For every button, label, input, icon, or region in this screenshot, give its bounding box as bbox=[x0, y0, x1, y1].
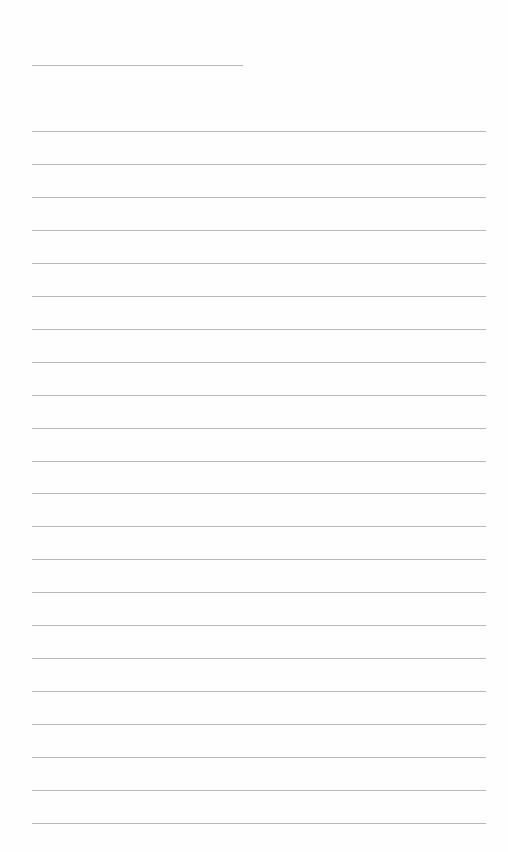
ruled-line bbox=[32, 395, 486, 396]
ruled-line bbox=[32, 230, 486, 231]
ruled-line bbox=[32, 329, 486, 330]
ruled-line bbox=[32, 526, 486, 527]
ruled-line bbox=[32, 691, 486, 692]
ruled-line bbox=[32, 658, 486, 659]
ruled-line bbox=[32, 592, 486, 593]
ruled-line bbox=[32, 296, 486, 297]
ruled-line bbox=[32, 461, 486, 462]
name-line bbox=[32, 65, 243, 66]
ruled-line bbox=[32, 493, 486, 494]
ruled-line bbox=[32, 724, 486, 725]
ruled-line bbox=[32, 428, 486, 429]
ruled-line bbox=[32, 362, 486, 363]
ruled-line bbox=[32, 164, 486, 165]
ruled-line bbox=[32, 625, 486, 626]
lined-paper-sheet bbox=[0, 0, 508, 852]
ruled-line bbox=[32, 131, 486, 132]
ruled-line bbox=[32, 559, 486, 560]
ruled-line bbox=[32, 790, 486, 791]
ruled-line bbox=[32, 263, 486, 264]
ruled-line bbox=[32, 197, 486, 198]
ruled-line bbox=[32, 757, 486, 758]
ruled-line bbox=[32, 823, 486, 824]
